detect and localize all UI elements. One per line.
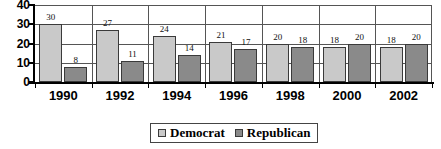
bar-value-label: 30 [39,13,62,22]
bar-group: 1820 [375,5,432,82]
x-tick-mark [35,82,36,88]
bar-democrat-1990 [39,24,62,82]
bar-chart: 010203040 308271124142117201818201820 De… [0,0,441,149]
y-axis: 010203040 [0,0,30,90]
x-axis-label-2002: 2002 [389,88,418,103]
y-tick-label: 20 [2,39,30,49]
bar-value-label: 18 [380,36,403,45]
bar-republican-1992 [121,61,144,82]
bar-value-label: 18 [291,36,314,45]
bar-group: 1820 [319,5,376,82]
bar-group: 2117 [205,5,262,82]
chart-legend: Democrat Republican [150,123,318,143]
legend-label-republican: Republican [247,126,311,140]
bar-democrat-1998 [266,44,289,83]
x-axis-label-1994: 1994 [162,88,191,103]
bar-group: 2018 [262,5,319,82]
y-tick-label: 10 [2,58,30,68]
y-tick-mark [29,43,35,45]
bar-democrat-1996 [209,42,232,82]
bar-value-label: 20 [348,33,371,42]
x-axis-label-2000: 2000 [332,88,361,103]
bar-republican-1990 [64,67,87,82]
bar-democrat-1992 [96,30,119,82]
bar-group: 2414 [148,5,205,82]
x-axis-label-1992: 1992 [106,88,135,103]
y-tick-label: 40 [2,0,30,10]
legend-swatch-democrat [158,129,166,137]
bar-republican-1998 [291,47,314,82]
bar-value-label: 11 [121,50,144,59]
bar-value-label: 20 [405,33,428,42]
x-tick-mark [205,82,206,88]
x-axis-label-1996: 1996 [219,88,248,103]
y-tick-label: 0 [2,77,30,87]
bar-republican-2000 [348,44,371,83]
bar-democrat-2002 [380,47,403,82]
legend-swatch-republican [235,129,243,137]
bar-group: 308 [35,5,92,82]
x-tick-mark [148,82,149,88]
bar-value-label: 27 [96,19,119,28]
bar-value-label: 17 [234,38,257,47]
legend-item-republican: Republican [235,126,311,140]
x-axis-label-1998: 1998 [276,88,305,103]
x-axis-label-1990: 1990 [49,88,78,103]
plot-area: 308271124142117201818201820 [35,5,432,82]
x-tick-mark [375,82,376,88]
bar-democrat-1994 [153,36,176,82]
x-tick-mark [92,82,93,88]
bar-value-label: 21 [209,31,232,40]
bar-republican-2002 [405,44,428,83]
x-axis-line [29,82,434,84]
bar-republican-1994 [178,55,201,82]
bar-value-label: 18 [323,36,346,45]
bar-value-label: 24 [153,25,176,34]
x-tick-mark [319,82,320,88]
bar-value-label: 14 [178,44,201,53]
bar-value-label: 20 [266,33,289,42]
bar-republican-1996 [234,49,257,82]
bar-value-label: 8 [64,56,87,65]
y-tick-mark [29,4,35,6]
legend-label-democrat: Democrat [170,126,225,140]
bar-group: 2711 [92,5,149,82]
y-tick-mark [29,62,35,64]
legend-item-democrat: Democrat [158,126,225,140]
bar-democrat-2000 [323,47,346,82]
x-tick-mark [432,82,433,88]
x-tick-mark [262,82,263,88]
y-tick-label: 30 [2,19,30,29]
y-tick-mark [29,23,35,25]
